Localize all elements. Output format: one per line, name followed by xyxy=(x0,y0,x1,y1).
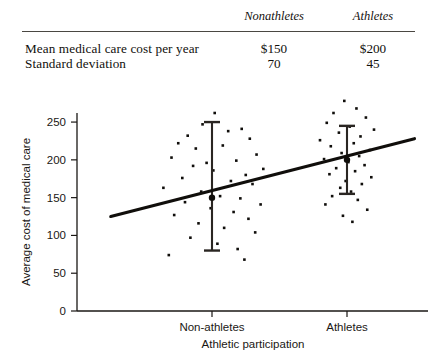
x-axis-category-labels: Non-athletesAthletes xyxy=(179,321,368,333)
scatter-point xyxy=(168,254,171,257)
scatter-point xyxy=(358,155,361,158)
y-axis-tick-label: 200 xyxy=(47,154,66,166)
y-axis-tick-label: 50 xyxy=(53,267,66,279)
scatter-point xyxy=(244,174,247,177)
table-column-header-athletes: Athletes xyxy=(337,9,409,24)
table-row-label-standard-deviation: Standard deviation xyxy=(25,56,126,72)
scatter-point xyxy=(192,165,195,168)
scatter-point-group xyxy=(162,100,375,261)
scatter-point xyxy=(373,128,376,131)
mean-marker-group xyxy=(209,157,350,201)
scatter-point xyxy=(236,248,239,251)
scatter-point xyxy=(323,158,326,161)
scatter-point xyxy=(335,167,338,170)
mean-marker xyxy=(344,157,350,163)
scatter-point xyxy=(262,168,265,171)
table-column-header-nonathletes: Nonathletes xyxy=(228,9,320,24)
table-cell-mean-cost-athletes: $200 xyxy=(337,41,409,57)
scatter-point xyxy=(162,187,165,190)
y-axis-title: Average cost of medical care xyxy=(20,138,32,286)
scatter-point xyxy=(223,227,226,230)
scatter-point xyxy=(230,180,233,183)
x-axis: Non-athletesAthletes xyxy=(77,311,428,333)
scatter-chart: 050100150200250 Non-athletesAthletes Ave… xyxy=(0,86,438,354)
scatter-point xyxy=(197,222,200,225)
scatter-point xyxy=(366,208,369,211)
x-axis-ticks xyxy=(212,311,347,317)
scatter-point xyxy=(342,214,345,217)
scatter-point xyxy=(170,156,173,159)
scatter-point xyxy=(251,183,254,186)
figure-root: Nonathletes Athletes Mean medical care c… xyxy=(0,0,438,354)
scatter-point xyxy=(222,144,225,147)
y-axis-tick-labels: 050100150200250 xyxy=(47,116,66,317)
x-axis-category-label: Athletes xyxy=(326,321,368,333)
scatter-point xyxy=(259,203,262,206)
scatter-point xyxy=(181,177,184,180)
scatter-point xyxy=(361,183,364,186)
scatter-point xyxy=(359,135,362,138)
scatter-point xyxy=(343,100,346,103)
scatter-point xyxy=(357,199,360,202)
scatter-point xyxy=(332,112,335,115)
y-axis-tick-label: 100 xyxy=(47,229,66,241)
scatter-point xyxy=(350,190,353,193)
scatter-point xyxy=(330,145,333,148)
scatter-point xyxy=(243,258,246,261)
scatter-point xyxy=(352,142,355,145)
scatter-point xyxy=(173,214,176,217)
scatter-point xyxy=(351,221,354,224)
y-axis-ticks xyxy=(71,122,77,311)
scatter-point xyxy=(365,116,368,119)
scatter-point xyxy=(195,147,198,150)
regression-trend-line xyxy=(111,139,415,217)
table-row-label-mean-cost: Mean medical care cost per year xyxy=(25,41,199,57)
table-cell-sd-athletes: 45 xyxy=(337,56,409,72)
scatter-point xyxy=(339,187,342,190)
x-axis-title: Athletic participation xyxy=(202,338,305,350)
y-axis-tick-label: 0 xyxy=(60,305,66,317)
scatter-point xyxy=(213,112,216,115)
summary-table: Nonathletes Athletes Mean medical care c… xyxy=(0,0,438,82)
scatter-point xyxy=(319,139,322,142)
scatter-point xyxy=(189,236,192,239)
scatter-point xyxy=(325,122,328,125)
scatter-point xyxy=(340,152,343,155)
scatter-point xyxy=(227,130,230,133)
table-cell-mean-cost-nonathletes: $150 xyxy=(228,41,320,57)
scatter-point xyxy=(363,164,366,167)
scatter-point xyxy=(186,134,189,137)
y-axis-tick-label: 150 xyxy=(47,192,66,204)
table-cell-sd-nonathletes: 70 xyxy=(228,56,320,72)
scatter-point xyxy=(219,195,222,198)
scatter-point xyxy=(216,242,219,245)
scatter-point xyxy=(328,173,331,176)
scatter-point xyxy=(249,137,252,140)
y-axis-tick-label: 250 xyxy=(47,116,66,128)
scatter-point xyxy=(354,170,357,173)
scatter-point xyxy=(184,201,187,204)
scatter-point xyxy=(254,231,257,234)
scatter-point xyxy=(177,142,180,145)
scatter-point xyxy=(355,107,358,110)
scatter-point xyxy=(201,123,204,126)
x-axis-category-label: Non-athletes xyxy=(179,321,244,333)
scatter-point xyxy=(370,176,373,179)
scatter-point xyxy=(331,195,334,198)
scatter-point xyxy=(324,203,327,206)
table-header-rule xyxy=(22,31,415,32)
scatter-point xyxy=(239,197,242,200)
scatter-point xyxy=(205,162,208,165)
scatter-point xyxy=(240,128,243,131)
scatter-point xyxy=(235,159,238,162)
scatter-point xyxy=(338,131,341,134)
y-axis: 050100150200250 xyxy=(47,113,77,317)
scatter-point xyxy=(255,153,258,156)
scatter-point xyxy=(232,211,235,214)
scatter-point xyxy=(247,218,250,221)
mean-marker xyxy=(209,194,215,200)
chart-canvas: 050100150200250 Non-athletesAthletes Ave… xyxy=(0,86,438,354)
